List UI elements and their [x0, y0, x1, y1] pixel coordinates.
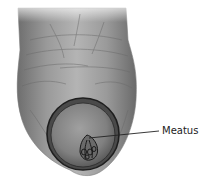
meatus-label: Meatus	[162, 125, 198, 137]
anatomical-illustration	[0, 0, 204, 181]
